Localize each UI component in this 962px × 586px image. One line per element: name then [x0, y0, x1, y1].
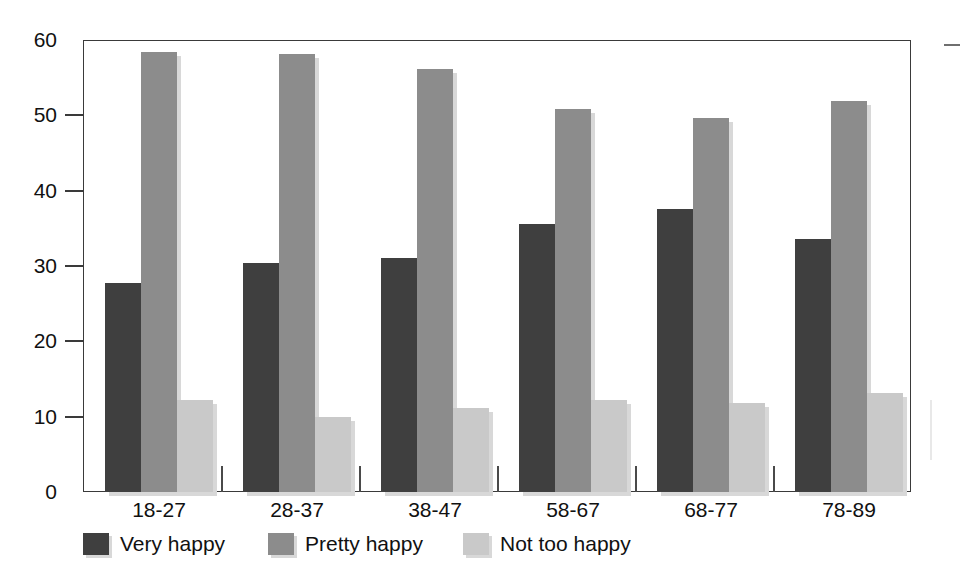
legend-swatch-not-too-happy — [463, 533, 489, 555]
x-axis-label: 68-77 — [684, 498, 738, 522]
bar-group — [795, 40, 903, 492]
y-axis-tick-label: 10 — [34, 405, 57, 429]
legend-item[interactable]: Not too happy — [463, 527, 631, 561]
bar-chart: 0102030405060 18-2728-3738-4758-6768-777… — [0, 0, 962, 586]
y-axis-tick: 50 — [0, 103, 83, 127]
bar-rect — [315, 417, 351, 492]
x-axis-separator-tick — [635, 466, 637, 492]
bar-rect — [105, 283, 141, 492]
y-axis-tick: 10 — [0, 405, 83, 429]
bar-face — [795, 239, 831, 492]
y-axis-tick-mark — [65, 190, 83, 192]
bar-rect — [831, 101, 867, 492]
y-axis-tick: 0 — [0, 480, 83, 504]
y-axis-tick-mark — [65, 340, 83, 342]
bar-rect — [243, 263, 279, 492]
bar-face — [867, 393, 903, 492]
bar-face — [555, 109, 591, 492]
bars-layer — [83, 40, 911, 492]
edge-dash-artifact — [944, 44, 960, 46]
legend-label: Very happy — [120, 532, 225, 556]
y-axis-tick-label: 50 — [34, 103, 57, 127]
x-axis-label: 28-37 — [270, 498, 324, 522]
bar-rect — [177, 400, 213, 492]
bar-rect — [693, 118, 729, 492]
bar-face — [417, 69, 453, 492]
x-axis-separator-tick — [221, 466, 223, 492]
y-axis-tick-label: 40 — [34, 179, 57, 203]
bar-rect — [729, 403, 765, 492]
bar-face — [381, 258, 417, 492]
y-axis-tick-mark — [65, 114, 83, 116]
bar-group — [657, 40, 765, 492]
bar-group — [381, 40, 489, 492]
legend-swatch-pretty-happy — [268, 533, 294, 555]
bar-rect — [795, 239, 831, 492]
bar-rect — [141, 52, 177, 492]
bar-face — [693, 118, 729, 492]
legend-swatch-face — [83, 533, 109, 555]
y-axis-tick-mark — [65, 416, 83, 418]
x-axis-separator-tick — [359, 466, 361, 492]
bar-face — [831, 101, 867, 492]
edge-smudge-artifact — [930, 400, 932, 460]
bar-group — [243, 40, 351, 492]
bar-face — [591, 400, 627, 492]
bar-face — [657, 209, 693, 492]
y-axis-tick-label: 30 — [34, 254, 57, 278]
bar-group — [105, 40, 213, 492]
bar-face — [519, 224, 555, 492]
bar-rect — [453, 408, 489, 492]
bar-face — [729, 403, 765, 492]
bar-face — [315, 417, 351, 492]
y-axis-tick: 30 — [0, 254, 83, 278]
y-axis-tick: 20 — [0, 329, 83, 353]
x-axis-separator-tick — [773, 466, 775, 492]
x-axis-label: 78-89 — [822, 498, 876, 522]
bar-face — [141, 52, 177, 492]
bar-rect — [279, 54, 315, 492]
legend-label: Not too happy — [500, 532, 631, 556]
x-axis-label: 38-47 — [408, 498, 462, 522]
y-axis-tick: 60 — [0, 28, 83, 52]
y-axis-tick-label: 0 — [45, 480, 57, 504]
bar-rect — [657, 209, 693, 492]
legend-swatch-very-happy — [83, 533, 109, 555]
legend-swatch-face — [268, 533, 294, 555]
legend-item[interactable]: Pretty happy — [268, 527, 423, 561]
bar-rect — [591, 400, 627, 492]
bar-face — [243, 263, 279, 492]
bar-face — [453, 408, 489, 492]
bar-rect — [867, 393, 903, 492]
bar-rect — [381, 258, 417, 492]
y-axis-tick-mark — [65, 265, 83, 267]
bar-rect — [417, 69, 453, 492]
legend-swatch-face — [463, 533, 489, 555]
y-axis: 0102030405060 — [0, 28, 83, 504]
y-axis-tick-label: 60 — [34, 28, 57, 52]
bar-rect — [555, 109, 591, 492]
bar-face — [105, 283, 141, 492]
x-axis-separator-tick — [497, 466, 499, 492]
legend-label: Pretty happy — [305, 532, 423, 556]
bar-face — [177, 400, 213, 492]
legend-item[interactable]: Very happy — [83, 527, 225, 561]
bar-rect — [519, 224, 555, 492]
y-axis-tick-label: 20 — [34, 329, 57, 353]
bar-group — [519, 40, 627, 492]
y-axis-tick: 40 — [0, 179, 83, 203]
x-axis-label: 58-67 — [546, 498, 600, 522]
x-axis-label: 18-27 — [132, 498, 186, 522]
bar-face — [279, 54, 315, 492]
